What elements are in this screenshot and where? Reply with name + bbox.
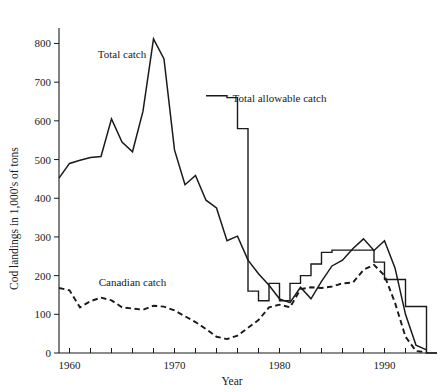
x-axis-title: Year: [221, 375, 242, 387]
chart-canvas: 0100200300400500600700800 19601970198019…: [0, 0, 442, 392]
y-axis-title: Cod landings in 1,000's of tons: [8, 147, 21, 290]
series-line-total-catch: [59, 39, 427, 350]
y-tick-label: 0: [46, 347, 52, 359]
cod-landings-chart: 0100200300400500600700800 19601970198019…: [0, 0, 442, 392]
y-tick-label: 200: [35, 270, 52, 282]
y-tick-label: 600: [35, 115, 52, 127]
series-label-total-catch: Total catch: [98, 48, 147, 60]
x-tick-label: 1970: [164, 359, 187, 371]
series-label-canadian-catch: Canadian catch: [99, 276, 167, 288]
y-tick-label: 400: [35, 192, 52, 204]
y-axis-ticks: 0100200300400500600700800: [35, 37, 60, 359]
x-axis-ticks: 1960197019801990: [59, 348, 427, 371]
y-tick-label: 300: [35, 231, 52, 243]
x-tick-label: 1990: [374, 359, 397, 371]
x-tick-label: 1960: [59, 359, 82, 371]
y-tick-label: 500: [35, 154, 52, 166]
data-series-group: [59, 39, 437, 353]
y-tick-label: 700: [35, 76, 52, 88]
series-annotations: Total catchTotal allowable catchCanadian…: [98, 48, 327, 288]
x-tick-label: 1980: [269, 359, 292, 371]
series-line-total-allowable-catch: [206, 96, 437, 353]
y-tick-label: 100: [35, 308, 52, 320]
y-tick-label: 800: [35, 37, 52, 49]
series-label-total-allowable-catch: Total allowable catch: [233, 92, 327, 104]
